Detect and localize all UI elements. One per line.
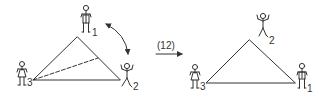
before-triangle xyxy=(33,37,120,80)
person-2-label: 2 xyxy=(133,81,139,92)
swap-arrow-icon xyxy=(106,24,128,54)
person-2-top-label: 2 xyxy=(269,35,275,46)
person-2-top-icon xyxy=(257,13,269,37)
transition-label: (12) xyxy=(157,40,175,51)
person-3-icon xyxy=(17,62,27,86)
person-3-label: 3 xyxy=(27,77,33,88)
person-3-left-label: 3 xyxy=(200,81,206,92)
person-1-right-icon xyxy=(297,63,307,88)
permutation-diagram: 1 3 2 xyxy=(0,0,327,100)
person-1-right-label: 1 xyxy=(307,83,313,94)
dashed-line xyxy=(33,58,98,80)
transition: (12) xyxy=(156,40,182,54)
before-diagram: 1 3 2 xyxy=(17,5,139,92)
person-1-icon xyxy=(81,5,91,32)
person-2-icon xyxy=(121,63,133,87)
person-1-label: 1 xyxy=(92,27,98,38)
after-diagram: 2 3 1 xyxy=(190,13,313,94)
person-3-left-icon xyxy=(190,65,200,89)
after-triangle xyxy=(206,40,295,83)
